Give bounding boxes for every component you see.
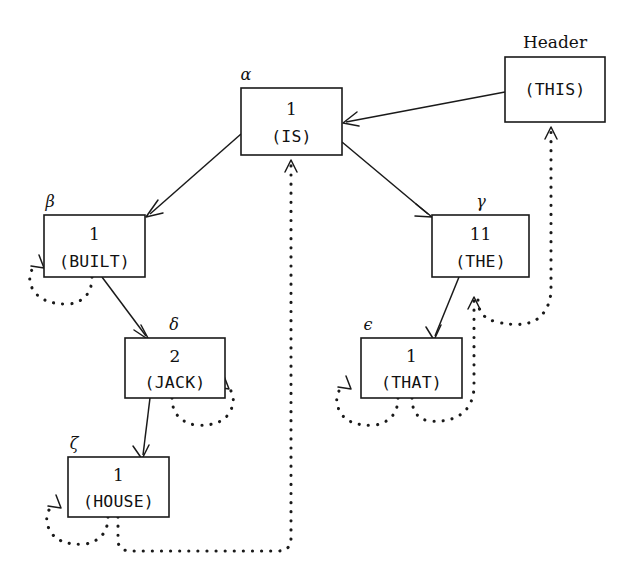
edge-this-to-alpha [343, 92, 505, 126]
node-zeta-word: (HOUSE) [83, 492, 154, 511]
edge-alpha-to-beta [146, 134, 241, 217]
node-zeta-count: 1 [113, 465, 124, 485]
edge-alpha-to-gamma [342, 142, 432, 217]
node-this-word: (THIS) [525, 80, 586, 99]
edge-gamma-to-epsilon [426, 277, 459, 340]
edge-delta-to-zeta [133, 398, 150, 459]
node-delta-word: (JACK) [145, 373, 206, 392]
node-this[interactable]: Header (THIS) [505, 32, 605, 122]
node-epsilon[interactable]: ϵ 1 (THAT) [361, 315, 462, 398]
node-epsilon-word: (THAT) [381, 373, 442, 392]
header-title: Header [523, 32, 588, 52]
diagram-canvas: α 1 (IS) β 1 (BUILT) γ 11 (THE) δ 2 (JAC… [0, 0, 623, 575]
node-beta-word: (BUILT) [59, 252, 130, 271]
node-alpha[interactable]: α 1 (IS) [241, 65, 342, 155]
node-gamma-tag: γ [476, 192, 486, 211]
node-zeta[interactable]: ζ 1 (HOUSE) [68, 434, 169, 517]
node-alpha-count: 1 [286, 99, 297, 119]
graph-svg: α 1 (IS) β 1 (BUILT) γ 11 (THE) δ 2 (JAC… [0, 0, 623, 575]
node-beta-count: 1 [89, 224, 100, 244]
node-epsilon-count: 1 [406, 346, 417, 366]
node-beta[interactable]: β 1 (BUILT) [44, 192, 145, 277]
node-zeta-tag: ζ [70, 434, 80, 453]
node-alpha-word: (IS) [271, 127, 312, 146]
node-beta-tag: β [44, 192, 54, 211]
node-gamma-word: (THE) [455, 252, 506, 271]
node-delta-tag: δ [169, 315, 179, 334]
node-alpha-tag: α [241, 65, 252, 84]
node-gamma[interactable]: γ 11 (THE) [432, 192, 529, 277]
edge-beta-to-delta [102, 277, 149, 340]
node-gamma-count: 11 [470, 224, 492, 244]
node-delta-count: 2 [170, 346, 181, 366]
node-epsilon-tag: ϵ [364, 315, 373, 334]
